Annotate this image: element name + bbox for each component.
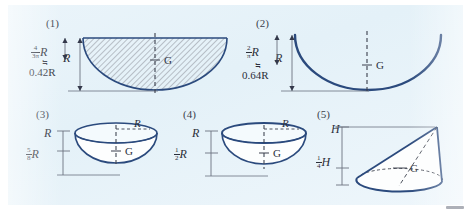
scanned-panel: (1) R 4 3π R ≒ 0.42R: [8, 5, 463, 205]
figure-sheet: (1) R 4 3π R ≒ 0.42R: [0, 0, 470, 212]
figure-3-drawing: R G: [8, 105, 158, 205]
figure-4-radius-label: R: [281, 117, 289, 129]
figure-4: (4) R 1 2 R R G: [158, 105, 313, 205]
figure-5-centroid-label: G: [410, 162, 418, 174]
figure-2-centroid-label: G: [376, 59, 384, 71]
figure-1-arrow-top: [77, 38, 82, 43]
figure-2-arc: [295, 35, 441, 90]
figure-5: (5) H 1 4 H G: [311, 105, 463, 205]
figure-4-drawing: R G: [158, 105, 313, 205]
figure-1-centroid-label: G: [164, 54, 172, 66]
figure-2-arrow-bottom: [289, 86, 294, 91]
figure-1-arrow-c-bottom: [62, 55, 67, 60]
figure-3-centroid-label: G: [125, 145, 133, 157]
figure-2-drawing: G: [223, 5, 463, 105]
figure-3: (3) R 5 8 R R: [8, 105, 158, 205]
figure-1-arrow-bottom: [77, 86, 82, 91]
figure-1-drawing: G: [8, 5, 228, 105]
figure-2-arrow-c-bottom: [274, 60, 279, 65]
figure-1: (1) R 4 3π R ≒ 0.42R: [8, 5, 228, 105]
scan-artifact-mark: [446, 206, 464, 209]
figure-3-radius-label: R: [133, 117, 141, 129]
figure-5-drawing: G: [311, 105, 463, 205]
figure-5-body-fill: [356, 127, 442, 192]
figure-2: (2) R 2 π R ≒ 0.64R: [223, 5, 463, 105]
figure-1-arrow-c-top: [62, 38, 67, 43]
figure-4-centroid-label: G: [273, 147, 281, 159]
figure-2-arrow-c-top: [274, 35, 279, 40]
